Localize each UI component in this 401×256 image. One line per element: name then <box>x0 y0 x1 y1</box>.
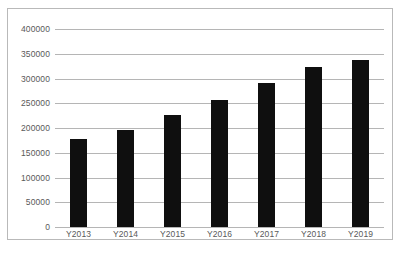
bar <box>305 67 322 227</box>
y-tick-label: 50000 <box>26 197 50 207</box>
bar <box>70 139 87 227</box>
chart-frame: 0500001000001500002000002500003000003500… <box>7 8 393 240</box>
bar-series <box>55 29 384 227</box>
x-tick-label: Y2015 <box>160 229 185 239</box>
x-tick-label: Y2019 <box>348 229 373 239</box>
gridline <box>55 227 384 228</box>
x-tick-label: Y2018 <box>301 229 326 239</box>
x-tick-label: Y2014 <box>113 229 138 239</box>
y-tick-label: 400000 <box>21 24 50 34</box>
y-tick-label: 150000 <box>21 148 50 158</box>
bar <box>258 83 275 227</box>
figure-caption <box>10 245 210 256</box>
y-tick-label: 0 <box>45 222 50 232</box>
x-tick-label: Y2016 <box>207 229 232 239</box>
x-axis-tick-labels: Y2013Y2014Y2015Y2016Y2017Y2018Y2019 <box>55 229 384 245</box>
x-tick-label: Y2017 <box>254 229 279 239</box>
x-tick-label: Y2013 <box>66 229 91 239</box>
y-tick-label: 300000 <box>21 74 50 84</box>
bar <box>211 100 228 227</box>
bar <box>117 130 134 227</box>
y-tick-label: 100000 <box>21 173 50 183</box>
bar <box>352 60 369 227</box>
y-axis-tick-labels: 0500001000001500002000002500003000003500… <box>8 29 50 227</box>
bar <box>164 115 181 227</box>
y-tick-label: 200000 <box>21 123 50 133</box>
figure: 0500001000001500002000002500003000003500… <box>0 0 401 256</box>
y-tick-label: 350000 <box>21 49 50 59</box>
y-tick-label: 250000 <box>21 98 50 108</box>
